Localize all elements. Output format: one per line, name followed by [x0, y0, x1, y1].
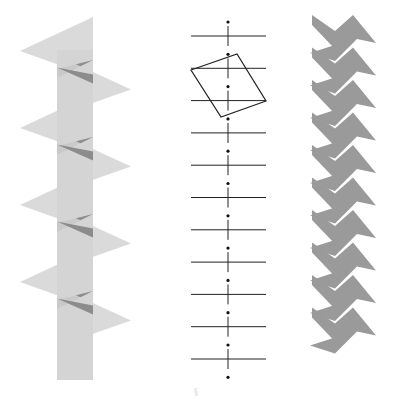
axis-dot — [226, 214, 229, 217]
triangle — [57, 287, 131, 347]
middle-axis-diagram — [191, 20, 266, 379]
footer-mark: § — [194, 390, 198, 402]
axis-dot — [226, 376, 229, 379]
axis-dot — [226, 279, 229, 282]
axis-dot — [226, 85, 229, 88]
axis-dot — [226, 117, 229, 120]
axis-dot — [226, 311, 229, 314]
axis-dot — [226, 150, 229, 153]
right-zigzag-band — [310, 15, 376, 354]
axis-dot — [226, 247, 229, 250]
axis-dot — [226, 182, 229, 185]
axis-dot — [226, 53, 229, 56]
symmetry-figure — [0, 0, 398, 412]
axis-dot — [226, 20, 229, 23]
left-glide-triangles — [20, 17, 131, 380]
axis-dot — [226, 343, 229, 346]
